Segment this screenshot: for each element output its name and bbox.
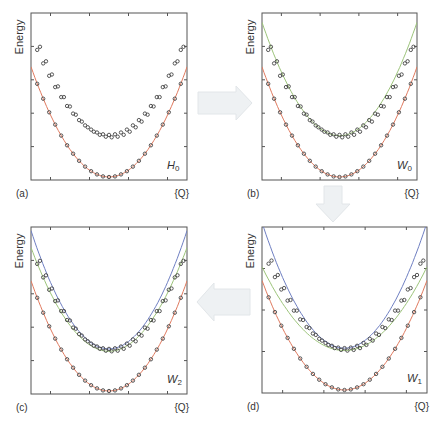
data-point-upper2: [116, 135, 119, 138]
curves: [262, 22, 417, 177]
upper-fit-blue-curve: [262, 223, 427, 349]
plot-frame: [31, 13, 187, 180]
data-point-upper2: [134, 126, 137, 129]
upper-fit-blue-curve: [31, 231, 187, 349]
data-points: [36, 259, 186, 393]
data-point-upper2: [104, 135, 107, 138]
operator-subscript: 0: [407, 164, 412, 173]
data-points: [36, 45, 186, 179]
data-point-upper2: [44, 60, 47, 63]
panel-c: Energy(c){Q}W2: [13, 227, 190, 413]
data-point-upper2: [314, 333, 317, 336]
figure: Energy(a){Q}H0 Energy(b){Q}W0 Energy(c){…: [0, 0, 445, 424]
data-point-upper2: [176, 60, 179, 63]
data-point-upper2: [134, 340, 137, 343]
operator-subscript: 2: [177, 378, 182, 387]
operator-label: W0: [397, 159, 412, 173]
data-point-upper2: [406, 60, 409, 63]
x-axis-label: {Q}: [405, 188, 420, 199]
panel-a: Energy(a){Q}H0: [13, 13, 190, 199]
panel-label: (c): [16, 402, 28, 413]
panel-label: (b): [247, 188, 259, 199]
data-point-upper1: [179, 48, 182, 51]
panel-b: Energy(b){Q}W0: [244, 13, 420, 199]
data-point-upper1: [409, 48, 412, 51]
y-axis-label: Energy: [244, 19, 256, 54]
lower-fit-curve: [262, 281, 427, 391]
upper-fit-green-curve: [262, 22, 417, 135]
y-axis-label: Energy: [13, 19, 25, 54]
x-axis-label: {Q}: [175, 402, 190, 413]
data-point-upper2: [128, 130, 131, 133]
operator-label: W1: [407, 372, 422, 386]
lower-fit-curve: [31, 67, 187, 177]
data-point-upper2: [122, 133, 125, 136]
data-point-upper1: [267, 48, 270, 51]
data-point-upper2: [341, 136, 344, 139]
data-point-upper1: [419, 262, 422, 265]
data-point-upper2: [270, 259, 273, 262]
upper-fit-green-curve: [262, 267, 427, 351]
operator-subscript: 1: [417, 377, 422, 386]
operator-subscript: 0: [175, 164, 180, 173]
data-point-upper2: [422, 259, 425, 262]
operator-label: W2: [167, 373, 182, 387]
data-point-upper2: [92, 130, 95, 133]
plot-frame: [31, 227, 187, 394]
data-point-upper2: [358, 130, 361, 133]
y-axis-label: Energy: [244, 233, 256, 268]
data-point-upper2: [38, 45, 41, 48]
panel-d: Energy(d){Q}W1: [244, 223, 430, 412]
arrow-down-b-to-d: [316, 186, 350, 222]
curves: [31, 67, 187, 177]
data-point-upper2: [276, 273, 279, 276]
data-point-upper2: [347, 135, 350, 138]
arrow-left-d-to-c: [197, 283, 250, 321]
data-points: [267, 259, 425, 392]
data-point-upper1: [36, 48, 39, 51]
data-point-upper2: [86, 126, 89, 129]
data-point-upper2: [38, 259, 41, 262]
data-point-upper2: [364, 126, 367, 129]
lower-fit-curve: [31, 281, 187, 391]
plot-frame: [262, 13, 417, 180]
data-point-upper1: [267, 262, 270, 265]
curves: [31, 231, 187, 391]
data-points: [267, 45, 416, 179]
lower-fit-curve: [262, 67, 417, 177]
x-axis-label: {Q}: [175, 188, 190, 199]
operator-label: H0: [167, 159, 180, 173]
curves: [262, 223, 427, 390]
panel-label: (a): [16, 188, 28, 199]
data-point-upper2: [110, 136, 113, 139]
panel-label: (d): [247, 401, 259, 412]
data-point-upper2: [415, 273, 418, 276]
data-point-upper2: [352, 133, 355, 136]
arrow-right-a-to-b: [198, 86, 252, 120]
y-axis-label: Energy: [13, 233, 25, 268]
x-axis-label: {Q}: [415, 401, 430, 412]
